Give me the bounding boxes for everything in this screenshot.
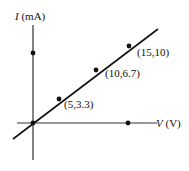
point-label-5-3.3: (5,3.3): [64, 98, 93, 110]
x-axis-unit: (V): [165, 117, 180, 129]
iv-graph: [0, 0, 189, 171]
x-axis-dot: [126, 121, 131, 126]
y-axis-unit: (mA): [21, 10, 45, 22]
point-5-3.3: [57, 97, 62, 102]
origin-point: [31, 121, 36, 126]
y-axis-symbol: I: [15, 10, 19, 22]
point-label-15-10: (15,10): [137, 46, 169, 58]
x-axis-symbol: V: [156, 117, 163, 129]
x-axis-label: V (V): [156, 117, 181, 129]
point-15-10: [127, 44, 132, 49]
point-label-10-6.7: (10,6.7): [105, 67, 140, 79]
y-axis-dot: [31, 51, 36, 56]
y-axis-label: I (mA): [15, 10, 45, 22]
point-10-6.7: [94, 68, 99, 73]
